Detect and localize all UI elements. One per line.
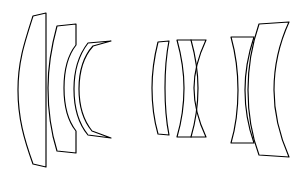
- lens-diagram: [0, 0, 298, 177]
- lens-cross-section-svg: [0, 0, 298, 177]
